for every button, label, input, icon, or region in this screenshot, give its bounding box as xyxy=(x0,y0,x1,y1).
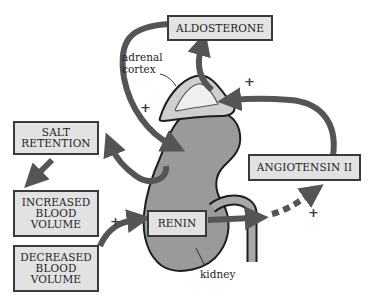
arrow-dashed-to-angiotensin xyxy=(272,194,310,214)
arrow-angiotensin-to-adrenal xyxy=(234,99,334,156)
kidney-shape xyxy=(144,109,252,271)
plus-sign-adrenal-left: + xyxy=(140,101,151,114)
kidney-label: kidney xyxy=(200,268,235,280)
aldosterone-box: ALDOSTERONE xyxy=(167,15,273,41)
arrow-salt-to-increased-volume xyxy=(36,160,52,176)
adrenal-cortex-leader xyxy=(160,74,176,86)
adrenal-cortex-label: adrenal cortex xyxy=(122,51,163,75)
decreased-blood-volume-box: DECREASED BLOOD VOLUME xyxy=(13,245,99,292)
plus-sign-adrenal-right: + xyxy=(244,75,255,88)
adrenal-gland-shape xyxy=(160,75,235,120)
renin-box: RENIN xyxy=(147,210,207,237)
plus-sign-angiotensin: + xyxy=(308,206,319,219)
increased-blood-volume-box: INCREASED BLOOD VOLUME xyxy=(13,190,99,237)
arrow-aldosterone-to-kidney xyxy=(123,24,170,144)
renin-angiotensin-diagram: ALDOSTERONE SALT RETENTION INCREASED BLO… xyxy=(0,0,369,304)
angiotensin-ii-box: ANGIOTENSIN II xyxy=(248,154,361,181)
salt-retention-box: SALT RETENTION xyxy=(13,121,99,155)
plus-sign-decreased-to-renin: + xyxy=(110,215,121,228)
arrow-renin-out xyxy=(208,218,252,220)
